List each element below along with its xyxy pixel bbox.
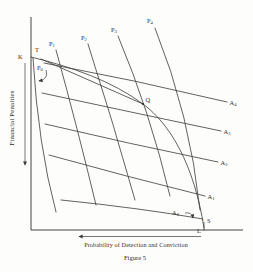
label-a3: A3 [224,128,232,136]
point-q [142,103,144,105]
x-axis-label: Probability of Detection and Conviction [84,242,188,248]
label-p2: P2 [81,34,88,42]
figure-caption: Figure 5 [124,254,147,261]
curve-a1 [49,155,205,196]
label-l: L [197,227,201,234]
curve-a0 [61,200,203,219]
label-t: T [35,46,39,53]
curve-p0 [33,58,56,212]
figure-5-plot: K T Q S L P0 P1 P2 P3 P4 A4 A3 A2 A1 A0 … [0,0,253,272]
curve-p3 [118,36,170,196]
label-p1: P1 [49,40,56,48]
chord-t-q [41,59,143,104]
label-a2: A2 [221,159,229,167]
figure-5-scanned-chart: K T Q S L P0 P1 P2 P3 P4 A4 A3 A2 A1 A0 … [0,0,253,272]
label-k: K [18,53,23,60]
curve-p1 [56,50,96,205]
label-p4: P4 [147,17,154,25]
label-p3: P3 [111,26,118,34]
label-q: Q [146,96,151,103]
label-s: S [207,217,211,224]
label-a0: A0 [172,209,180,217]
y-axis-label: Financial Penalties [8,90,15,145]
label-p0: P0 [37,64,44,72]
curve-frontier-ktqsl [31,57,204,228]
label-a1: A1 [208,193,216,201]
curve-a2 [45,124,218,162]
label-a4: A4 [230,99,238,107]
